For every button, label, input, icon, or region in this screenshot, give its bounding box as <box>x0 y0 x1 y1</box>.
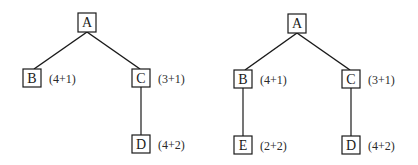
node-c: C <box>132 69 150 87</box>
svg-text:A: A <box>292 16 303 31</box>
node-d-cost: (4+2) <box>368 139 395 153</box>
svg-text:C: C <box>346 72 355 87</box>
node-b-cost: (4+1) <box>260 73 287 87</box>
svg-text:C: C <box>136 71 145 86</box>
node-b-cost: (4+1) <box>49 72 76 86</box>
tree-left: A B (4+1) C (3+1) D (4+2) <box>23 13 185 153</box>
tree-diagrams: A B (4+1) C (3+1) D (4+2) A B ( <box>0 0 418 165</box>
node-c: C <box>342 70 360 88</box>
node-a: A <box>78 13 96 32</box>
node-d: D <box>342 136 360 154</box>
node-b: B <box>234 70 252 88</box>
tree-right: A B (4+1) C (3+1) E (2+2) D (4+2) <box>234 14 395 154</box>
node-c-cost: (3+1) <box>368 73 395 87</box>
node-d: D <box>132 135 150 153</box>
svg-text:E: E <box>239 138 248 153</box>
svg-text:A: A <box>82 15 93 30</box>
edge-a-b <box>245 33 297 70</box>
node-e: E <box>234 136 252 154</box>
edge-a-c <box>87 32 140 69</box>
svg-text:D: D <box>136 137 146 152</box>
svg-text:D: D <box>346 138 356 153</box>
node-b: B <box>23 69 41 87</box>
svg-text:B: B <box>27 71 36 86</box>
svg-text:B: B <box>238 72 247 87</box>
node-a: A <box>288 14 306 33</box>
edge-a-b <box>34 32 87 69</box>
node-e-cost: (2+2) <box>260 139 287 153</box>
edge-a-c <box>297 33 350 70</box>
node-c-cost: (3+1) <box>158 72 185 86</box>
node-d-cost: (4+2) <box>158 138 185 152</box>
